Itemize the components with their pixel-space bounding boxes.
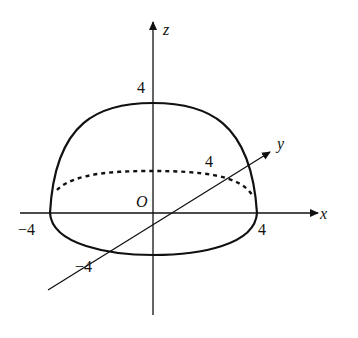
base-ellipse-back xyxy=(57,171,252,195)
y-tick-4: 4 xyxy=(205,153,213,170)
y-tick-neg4: −4 xyxy=(75,258,92,275)
origin-label: O xyxy=(136,193,148,210)
y-axis-label: y xyxy=(275,135,285,153)
z-tick-4: 4 xyxy=(137,79,145,96)
x-tick-neg4: −4 xyxy=(18,221,35,238)
x-axis-label: x xyxy=(319,205,327,222)
z-axis-label: z xyxy=(162,21,170,38)
dome-diagram: z x y 4 O −4 4 −4 4 xyxy=(0,0,358,338)
diagram-canvas: z x y 4 O −4 4 −4 4 xyxy=(0,0,358,338)
x-tick-4: 4 xyxy=(258,221,266,238)
